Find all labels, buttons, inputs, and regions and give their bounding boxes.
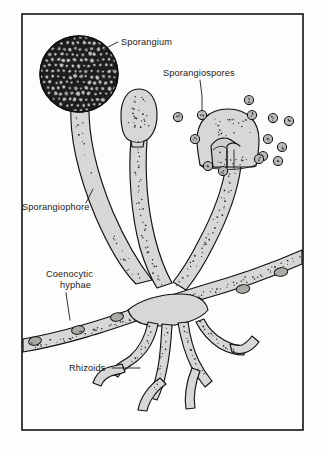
- rhizopus-diagram: SporangiumSporangiosporesSporangiophoreC…: [0, 0, 326, 453]
- label-sporangium: Sporangium: [121, 37, 172, 47]
- sporangiospore: [173, 112, 182, 121]
- sporangiospore: [244, 95, 253, 104]
- label-sporangiophore: Sporangiophore: [22, 202, 90, 212]
- sporangiospore: [247, 110, 256, 119]
- sporangiospore: [284, 116, 293, 125]
- figure-root: SporangiumSporangiosporesSporangiophoreC…: [0, 0, 326, 453]
- sporangiospore: [254, 154, 263, 163]
- label-sporangiospores: Sporangiospores: [163, 68, 235, 78]
- sporangiospore: [203, 161, 212, 170]
- sporangiospore: [263, 134, 272, 143]
- sporangiospore: [190, 134, 199, 143]
- sporangiospore: [277, 142, 286, 151]
- sporangiospore: [197, 110, 206, 119]
- sporangiospore: [268, 113, 277, 122]
- label-rhizoids: Rhizoids: [69, 363, 106, 373]
- sporangiospore: [273, 156, 282, 165]
- sporangiospore: [218, 166, 227, 175]
